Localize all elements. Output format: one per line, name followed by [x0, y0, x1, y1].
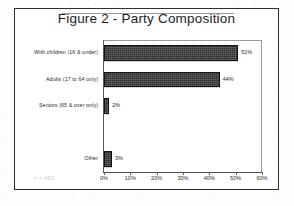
bar-value-label: 51% [241, 50, 252, 55]
category-label: Seniors (65 & over only) [39, 103, 98, 108]
x-tick-label: 30% [177, 176, 188, 182]
sample-size-note: n = 462 [34, 175, 54, 181]
bar [104, 72, 220, 88]
x-tick-label: 10% [125, 176, 136, 182]
bar-value-label: 3% [115, 156, 123, 161]
category-label: With children (16 & under) [34, 50, 98, 55]
x-tick-label: 20% [151, 176, 162, 182]
bar-value-label: 44% [223, 77, 234, 82]
x-tick-label: 0% [100, 176, 108, 182]
x-tick-label: 50% [230, 176, 241, 182]
category-label: Other [84, 156, 98, 161]
x-tick-label: 60% [256, 176, 267, 182]
bar-value-label: 2% [112, 103, 120, 108]
x-tick-label: 40% [204, 176, 215, 182]
chart-title: Figure 2 - Party Composition [14, 11, 279, 26]
category-label: Adults (17 to 64 only) [46, 77, 98, 82]
bar [104, 45, 238, 61]
bar [104, 98, 109, 114]
bar [104, 151, 112, 167]
